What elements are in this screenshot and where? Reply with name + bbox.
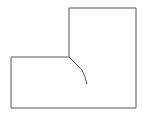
inner-corner-curve xyxy=(69,57,87,84)
diagram-canvas xyxy=(0,0,147,118)
l-shape-outline xyxy=(11,8,136,108)
